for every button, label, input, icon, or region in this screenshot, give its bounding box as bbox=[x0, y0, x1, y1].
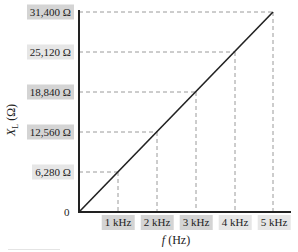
y-tick-label: 18,840 Ω bbox=[27, 85, 74, 100]
y-tick-label: 25,120 Ω bbox=[27, 45, 74, 60]
x-tick-label: 3 kHz bbox=[180, 215, 213, 230]
y-axis-title-unit: (Ω) bbox=[4, 104, 18, 124]
x-axis-title: f (Hz) bbox=[162, 233, 190, 248]
y-axis-title-subscript: L bbox=[11, 124, 20, 129]
y-axis-title-symbol: X bbox=[4, 129, 18, 136]
x-tick-label: 4 kHz bbox=[219, 215, 252, 230]
x-tick-label: 5 kHz bbox=[258, 215, 291, 230]
y-tick-label: 12,560 Ω bbox=[27, 125, 74, 140]
divider-line bbox=[8, 249, 60, 250]
reactance-line bbox=[80, 12, 273, 211]
origin-label: 0 bbox=[64, 206, 70, 218]
y-tick-label: 31,400 Ω bbox=[27, 5, 74, 20]
x-tick-label: 1 kHz bbox=[102, 215, 135, 230]
y-tick-label: 6,280 Ω bbox=[32, 165, 74, 180]
x-axis-title-unit: (Hz) bbox=[165, 233, 190, 247]
y-axis-title: XL (Ω) bbox=[4, 104, 20, 136]
x-tick-label: 2 kHz bbox=[141, 215, 174, 230]
